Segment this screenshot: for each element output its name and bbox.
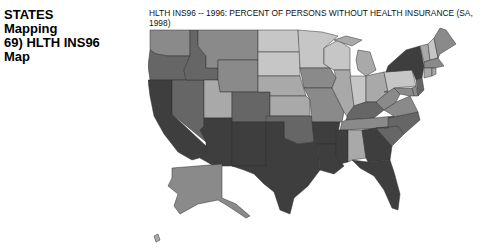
state-me — [434, 28, 456, 58]
state-fl — [352, 160, 400, 210]
report-title-line-4: Map — [4, 50, 100, 64]
state-ak — [168, 164, 250, 218]
state-hi — [154, 234, 160, 242]
report-title-line-1: STATES — [4, 8, 100, 22]
state-mi — [356, 50, 376, 76]
us-choropleth-map — [148, 26, 497, 248]
map-title: HLTH INS96 -- 1996: PERCENT OF PERSONS W… — [149, 8, 494, 28]
state-wa — [150, 30, 190, 56]
state-ms — [336, 130, 348, 164]
state-nm — [232, 122, 266, 166]
state-ia — [300, 68, 336, 88]
state-wy — [218, 60, 258, 92]
state-ks — [270, 96, 310, 116]
report-title-line-2: Mapping — [4, 22, 100, 36]
state-ct — [424, 68, 432, 78]
state-az — [200, 118, 232, 166]
state-co — [232, 92, 270, 122]
report-title-line-3: 69) HLTH INS96 — [4, 36, 100, 50]
state-sd — [258, 52, 300, 76]
report-title: STATES Mapping 69) HLTH INS96 Map — [4, 8, 100, 64]
state-ri — [432, 68, 436, 76]
state-nd — [258, 30, 300, 52]
